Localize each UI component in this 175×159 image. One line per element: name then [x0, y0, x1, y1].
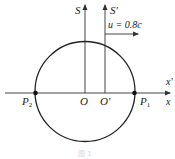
point-p1 [132, 91, 137, 96]
relativity-diagram: S S′ u = 0.8c x′ x P2 O O′ P1 图 1 [0, 0, 175, 159]
x-prime-axis-label: x′ [165, 76, 173, 87]
origin-label: O [80, 95, 88, 107]
s-frame-label: S [75, 4, 81, 16]
s-prime-frame-label: S′ [110, 4, 119, 16]
origin-prime-label: O′ [100, 95, 111, 107]
velocity-label: u = 0.8c [108, 19, 142, 30]
x-axis-label: x [165, 96, 171, 107]
point-p2 [33, 91, 38, 96]
figure-caption: 图 1 [78, 150, 92, 158]
p1-label: P1 [139, 95, 151, 109]
p2-label: P2 [21, 95, 33, 109]
